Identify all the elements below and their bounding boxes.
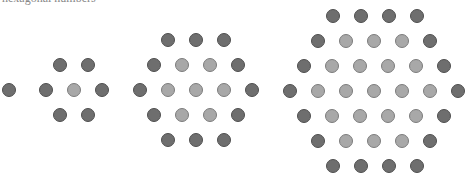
inner-dot [339, 84, 353, 98]
outer-dot [382, 159, 396, 173]
inner-dot [395, 134, 409, 148]
outer-dot [382, 9, 396, 23]
outer-dot [53, 58, 67, 72]
inner-dot [381, 59, 395, 73]
outer-dot [437, 59, 451, 73]
inner-dot [311, 84, 325, 98]
inner-dot [325, 59, 339, 73]
inner-dot [353, 59, 367, 73]
outer-dot [245, 83, 259, 97]
outer-dot [311, 134, 325, 148]
inner-dot [175, 108, 189, 122]
outer-dot [423, 134, 437, 148]
inner-dot [175, 58, 189, 72]
inner-dot [423, 84, 437, 98]
outer-dot [231, 108, 245, 122]
outer-dot [161, 33, 175, 47]
inner-dot [161, 83, 175, 97]
outer-dot [297, 109, 311, 123]
inner-dot [395, 84, 409, 98]
outer-dot [217, 133, 231, 147]
outer-dot [81, 58, 95, 72]
outer-dot [133, 83, 147, 97]
inner-dot [217, 83, 231, 97]
inner-dot [339, 134, 353, 148]
outer-dot [147, 58, 161, 72]
outer-dot [423, 34, 437, 48]
outer-dot [326, 159, 340, 173]
inner-dot [339, 34, 353, 48]
outer-dot [161, 133, 175, 147]
outer-dot [311, 34, 325, 48]
outer-dot [354, 9, 368, 23]
inner-dot [409, 59, 423, 73]
outer-dot [283, 84, 297, 98]
outer-dot [39, 83, 53, 97]
outer-dot [147, 108, 161, 122]
outer-dot [231, 58, 245, 72]
outer-dot [53, 108, 67, 122]
inner-dot [325, 109, 339, 123]
outer-dot [189, 33, 203, 47]
inner-dot [203, 108, 217, 122]
inner-dot [367, 84, 381, 98]
inner-dot [189, 83, 203, 97]
outer-dot [410, 159, 424, 173]
inner-dot [67, 83, 81, 97]
outer-dot [81, 108, 95, 122]
outer-dot [354, 159, 368, 173]
hexagonal-dot-figure [0, 0, 469, 177]
outer-dot [326, 9, 340, 23]
outer-dot [2, 83, 16, 97]
outer-dot [217, 33, 231, 47]
inner-dot [203, 58, 217, 72]
outer-dot [451, 84, 465, 98]
inner-dot [367, 134, 381, 148]
inner-dot [353, 109, 367, 123]
outer-dot [410, 9, 424, 23]
outer-dot [437, 109, 451, 123]
outer-dot [297, 59, 311, 73]
outer-dot [189, 133, 203, 147]
inner-dot [395, 34, 409, 48]
inner-dot [409, 109, 423, 123]
outer-dot [95, 83, 109, 97]
inner-dot [381, 109, 395, 123]
inner-dot [367, 34, 381, 48]
